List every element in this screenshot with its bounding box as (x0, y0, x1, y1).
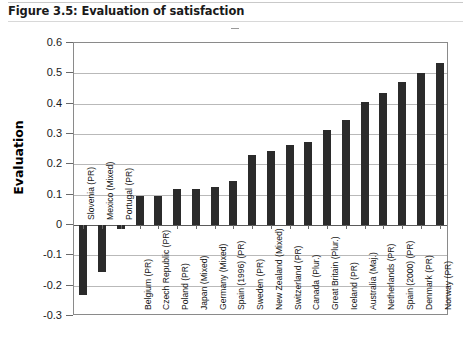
bar (379, 93, 387, 225)
y-axis-tick (66, 285, 73, 286)
title-divider-top (8, 2, 463, 3)
x-axis-tick (83, 225, 84, 229)
x-axis-category-label: Mexico (Mixed) (105, 162, 115, 220)
bar (267, 151, 275, 225)
y-axis-label: 0.6 (10, 36, 62, 48)
y-axis-tick (66, 133, 73, 134)
y-axis-label: 0.2 (10, 157, 62, 169)
y-axis-tick (66, 42, 73, 43)
x-axis-tick (290, 225, 291, 229)
y-axis-label-text: 0 (10, 218, 62, 230)
y-axis-label: 0.4 (10, 97, 62, 109)
y-axis-label: 0.5 (10, 66, 62, 78)
x-axis-tick (383, 225, 384, 229)
y-axis-tick (66, 163, 73, 164)
y-axis-tick (66, 194, 73, 195)
y-axis-label-text: 0.5 (10, 66, 62, 78)
gridline (74, 104, 447, 105)
gridline (74, 164, 447, 165)
bar (136, 196, 144, 225)
x-axis-tick (233, 225, 234, 229)
bar (192, 189, 200, 225)
x-axis-category-label: Portugal (PR) (124, 168, 134, 220)
y-axis-tick (66, 72, 73, 73)
y-axis-label: 0 (10, 218, 62, 230)
bar (173, 189, 181, 225)
y-axis-label-text: 0.4 (10, 97, 62, 109)
bar (229, 181, 237, 225)
x-axis-tick (177, 225, 178, 229)
y-axis-label-text: -0.2 (10, 279, 62, 291)
x-axis-category-label: Spain (2000) (PR) (405, 241, 415, 310)
gridline (74, 73, 447, 74)
x-axis-tick (158, 225, 159, 229)
x-axis-tick (271, 225, 272, 229)
x-axis-tick (440, 225, 441, 229)
x-axis-tick (327, 225, 328, 229)
x-axis-tick (140, 225, 141, 229)
y-axis-tick (66, 103, 73, 104)
x-axis-category-label: Norway (PR) (443, 261, 453, 310)
x-axis-tick (102, 225, 103, 229)
bar (286, 145, 294, 225)
x-axis-category-label: Netherlands (PR) (386, 244, 396, 310)
x-axis-category-label: Sweden (PR) (255, 259, 265, 310)
x-axis-category-label: Germany (Mixed) (218, 244, 228, 310)
y-axis-label: -0.1 (10, 248, 62, 260)
x-axis-category-label: Iceland (PR) (349, 262, 359, 310)
title-divider-bottom (8, 21, 463, 22)
x-axis-tick (346, 225, 347, 229)
x-axis-category-label: Slovenia (PR) (86, 167, 96, 220)
bar (154, 196, 162, 225)
y-axis-label: -0.3 (10, 309, 62, 321)
y-axis-tick (66, 315, 73, 316)
bar (248, 155, 256, 225)
x-axis-tick (196, 225, 197, 229)
x-axis-tick (308, 225, 309, 229)
bar (417, 73, 425, 225)
x-axis-category-label: Canada (Plur.) (311, 255, 321, 310)
x-axis-tick (121, 225, 122, 229)
x-axis-tick (252, 225, 253, 229)
gridline (74, 134, 447, 135)
bar (98, 225, 106, 272)
x-axis-tick (421, 225, 422, 229)
x-axis-category-label: Poland (PR) (180, 263, 190, 310)
y-axis-tick (66, 254, 73, 255)
y-axis-label-text: -0.1 (10, 248, 62, 260)
x-axis-category-label: New Zealand (Mixed) (274, 228, 284, 310)
bar (304, 142, 312, 225)
y-axis-label-text: 0.1 (10, 188, 62, 200)
x-axis-category-label: Spain (1996) (PR) (236, 241, 246, 310)
bar (398, 82, 406, 225)
x-axis-category-label: Great Britain (Plur.) (330, 236, 340, 310)
y-axis-tick (66, 224, 73, 225)
x-axis-category-label: Switzerland (PR) (293, 246, 303, 310)
y-axis-label-text: 0.6 (10, 36, 62, 48)
y-axis-label-text: -0.3 (10, 309, 62, 321)
zero-axis-line (74, 225, 447, 226)
figure-title: Figure 3.5: Evaluation of satisfaction (8, 4, 244, 18)
figure-container: Figure 3.5: Evaluation of satisfaction E… (0, 0, 471, 342)
bar (211, 187, 219, 225)
stray-tick-mark (231, 28, 239, 29)
y-axis-label: 0.3 (10, 127, 62, 139)
x-axis-category-label: Czech Republic (PR) (161, 230, 171, 310)
bar (79, 225, 87, 295)
x-axis-tick (365, 225, 366, 229)
x-axis-category-label: Belgium (PR) (143, 259, 153, 310)
bar (342, 120, 350, 225)
x-axis-tick (215, 225, 216, 229)
y-axis-label-text: 0.3 (10, 127, 62, 139)
y-axis-label-text: 0.2 (10, 157, 62, 169)
y-axis-label: -0.2 (10, 279, 62, 291)
bar (361, 102, 369, 225)
y-axis-label: 0.1 (10, 188, 62, 200)
bar (323, 130, 331, 225)
x-axis-category-label: Denmark (PR) (424, 255, 434, 310)
x-axis-category-label: Australia (Maj.) (368, 252, 378, 310)
x-axis-category-label: Japan (Mixed) (199, 256, 209, 310)
bar (436, 63, 444, 225)
x-axis-tick (402, 225, 403, 229)
